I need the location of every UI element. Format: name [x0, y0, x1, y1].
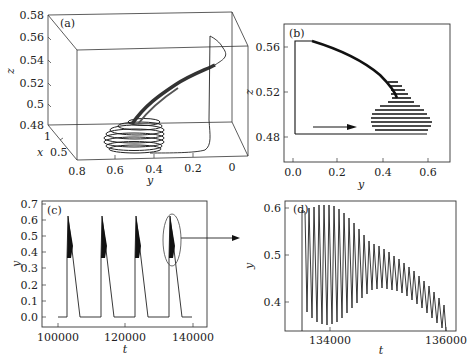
panel-d: 0.6 0.5 0.4 134000 136000 t y (d)	[243, 201, 467, 357]
trajectory-3d	[104, 36, 226, 153]
svg-text:0.6: 0.6	[21, 214, 39, 227]
svg-text:0.2: 0.2	[328, 166, 346, 179]
panel-b: 0.56 0.52 0.48 0.0 0.2 0.4 0.6 y z (b)	[243, 24, 450, 191]
svg-text:136000: 136000	[425, 334, 467, 347]
svg-text:0.6: 0.6	[106, 164, 124, 177]
svg-text:0.54: 0.54	[20, 54, 45, 67]
svg-text:0.0: 0.0	[21, 311, 39, 324]
burst-fills	[67, 216, 175, 258]
x-axis-label: x	[37, 146, 44, 159]
panel-a: 0.58 0.56 0.54 0.52 0.5 0.48 z 1 0.5 x 0…	[4, 9, 248, 187]
svg-text:100000: 100000	[37, 331, 79, 344]
panel-c: 0.7 0.6 0.5 0.4 0.3 0.2 0.1 0.0 100000 1…	[10, 198, 240, 356]
arrow-head-icon	[232, 235, 240, 241]
svg-text:0.5: 0.5	[21, 230, 39, 243]
svg-text:0.8: 0.8	[68, 165, 86, 178]
panel-label-a: (a)	[60, 17, 75, 30]
arrow-head-icon	[347, 124, 357, 130]
panel-label-c: (c)	[47, 204, 62, 217]
svg-text:0.48: 0.48	[256, 131, 281, 144]
svg-text:140000: 140000	[172, 331, 214, 344]
y-axis-label: y	[146, 174, 154, 187]
svg-text:0.0: 0.0	[284, 166, 302, 179]
panel-label-d: (d)	[293, 203, 309, 216]
panel-label-b: (b)	[289, 27, 305, 40]
svg-text:0.4: 0.4	[264, 296, 282, 309]
svg-text:0.5: 0.5	[264, 249, 282, 262]
trajectory-2d	[295, 41, 432, 134]
svg-text:0.56: 0.56	[20, 31, 45, 44]
svg-text:0.58: 0.58	[20, 9, 45, 22]
y-axis-label: y	[10, 260, 23, 268]
svg-text:0.2: 0.2	[21, 279, 39, 292]
y-axis-label: y	[243, 262, 256, 270]
svg-text:0.56: 0.56	[256, 41, 281, 54]
svg-text:0.5: 0.5	[50, 146, 68, 159]
svg-text:0.6: 0.6	[419, 166, 437, 179]
svg-text:0.4: 0.4	[374, 166, 392, 179]
z-axis-label: z	[4, 68, 17, 75]
svg-text:134000: 134000	[309, 334, 351, 347]
svg-text:0.2: 0.2	[184, 162, 202, 175]
svg-text:0: 0	[229, 161, 236, 174]
svg-text:0.52: 0.52	[20, 77, 45, 90]
x-axis-label: t	[123, 343, 128, 356]
x-axis-label: t	[379, 344, 384, 357]
svg-text:0.5: 0.5	[27, 98, 45, 111]
figure: 0.58 0.56 0.54 0.52 0.5 0.48 z 1 0.5 x 0…	[0, 0, 475, 359]
oscillation-series	[302, 205, 446, 331]
plot-frame	[284, 24, 450, 162]
svg-text:0.6: 0.6	[264, 202, 282, 215]
svg-text:0.3: 0.3	[21, 262, 39, 275]
svg-text:0.4: 0.4	[21, 246, 39, 259]
x-axis-label: y	[357, 178, 365, 191]
svg-text:0.1: 0.1	[21, 295, 39, 308]
z-axis-ticks: 0.58 0.56 0.54 0.52 0.5 0.48	[20, 9, 52, 132]
svg-text:0.7: 0.7	[21, 198, 39, 211]
svg-text:0.48: 0.48	[20, 119, 45, 132]
y-axis-label: z	[243, 89, 256, 96]
svg-text:1: 1	[44, 130, 51, 143]
svg-text:0.52: 0.52	[256, 86, 281, 99]
